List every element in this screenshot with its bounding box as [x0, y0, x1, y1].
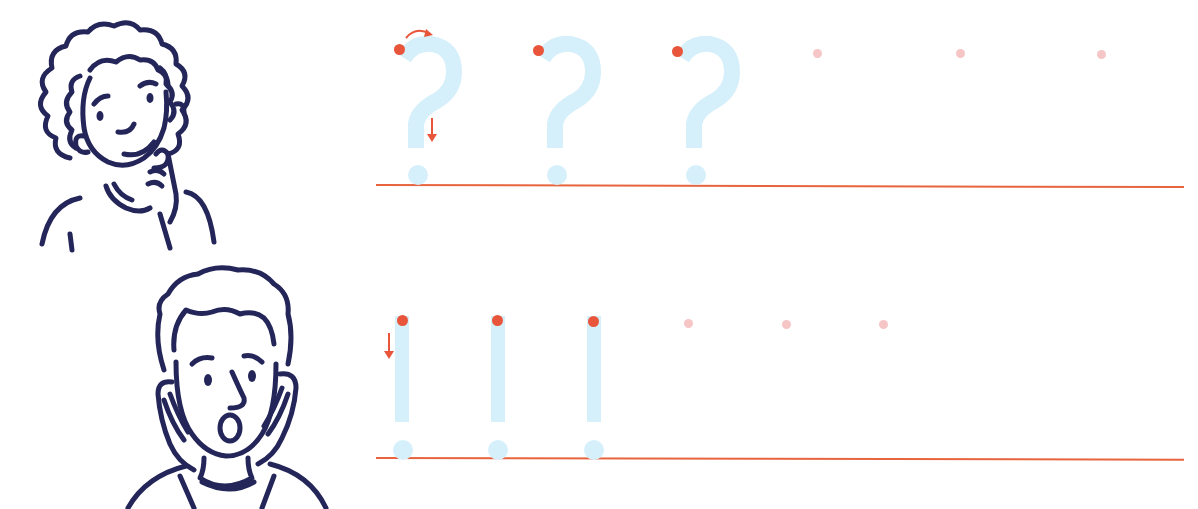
down-arrow-icon — [426, 118, 438, 144]
practice-guide-dot[interactable] — [879, 320, 888, 329]
stroke-start-dot — [672, 46, 683, 57]
practice-guide-dot[interactable] — [956, 49, 965, 58]
thinking-girl-illustration — [10, 8, 225, 253]
stroke-start-dot — [533, 45, 544, 56]
practice-guide-dot[interactable] — [782, 320, 791, 329]
traced-question-mark-2 — [535, 36, 605, 188]
surprised-boy-illustration — [120, 262, 332, 509]
traced-question-mark-3 — [674, 36, 744, 188]
curved-arrow-clockwise-icon — [402, 24, 438, 44]
traced-exclamation-mark-1 — [392, 316, 414, 462]
traced-exclamation-mark-3 — [583, 316, 605, 462]
down-arrow-icon — [383, 333, 395, 361]
stroke-start-dot — [397, 315, 408, 326]
practice-guide-dot[interactable] — [684, 319, 693, 328]
stroke-start-dot — [492, 315, 503, 326]
traced-exclamation-mark-2 — [487, 316, 509, 462]
stroke-start-dot — [394, 44, 405, 55]
writing-baseline — [376, 184, 1184, 188]
practice-guide-dot[interactable] — [1097, 50, 1106, 59]
traced-question-mark-1 — [396, 36, 466, 188]
practice-guide-dot[interactable] — [813, 49, 822, 58]
stroke-start-dot — [588, 316, 599, 327]
